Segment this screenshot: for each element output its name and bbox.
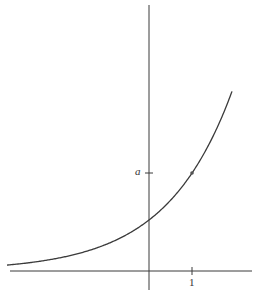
y-tick-label-a: a xyxy=(135,165,141,177)
x-tick-label-1: 1 xyxy=(189,276,195,288)
exponential-curve xyxy=(7,91,232,265)
point-1-a xyxy=(190,171,194,175)
graph-canvas xyxy=(0,0,259,294)
